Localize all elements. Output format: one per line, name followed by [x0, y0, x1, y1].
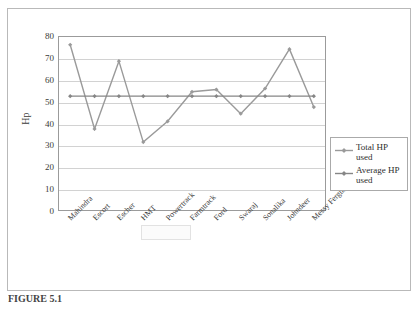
figure-caption: FIGURE 5.1 — [8, 293, 416, 305]
data-point-marker — [287, 94, 291, 98]
legend-item[interactable]: Total HP used — [334, 142, 404, 162]
legend-item-label: Total HP used — [356, 142, 404, 162]
data-point-marker — [117, 59, 121, 63]
y-axis-tick-label: 0 — [30, 207, 54, 216]
data-point-marker — [92, 127, 96, 131]
data-point-marker — [166, 94, 170, 98]
series-layer — [58, 36, 326, 211]
y-axis-tick-labels: 80706050403020100 — [26, 36, 54, 211]
y-axis-tick-label: 70 — [30, 54, 54, 63]
y-axis-tick-label: 50 — [30, 98, 54, 107]
chart-legend: Total HP usedAverage HP used — [330, 137, 408, 191]
y-axis-tick-label: 20 — [30, 163, 54, 172]
data-point-marker — [312, 94, 316, 98]
y-axis-tick-label: 80 — [30, 32, 54, 41]
y-axis-tick-label: 40 — [30, 120, 54, 129]
data-point-marker — [68, 94, 72, 98]
data-point-marker — [92, 94, 96, 98]
data-point-marker — [68, 43, 72, 47]
data-point-marker — [117, 94, 121, 98]
x-axis-tick-labels: MahindraEscortEscherHMTPowertrackFarmtra… — [58, 212, 326, 290]
data-point-marker — [141, 94, 145, 98]
data-point-marker — [263, 94, 267, 98]
y-axis-tick-label: 10 — [30, 185, 54, 194]
data-point-marker — [190, 94, 194, 98]
y-axis-tick-label: 60 — [30, 76, 54, 85]
data-point-marker — [312, 105, 316, 109]
legend-item-label: Average HP used — [356, 165, 404, 185]
legend-marker-icon — [334, 165, 354, 176]
legend-item[interactable]: Average HP used — [334, 165, 404, 185]
figure-frame: Hp 80706050403020100 MahindraEscortEsche… — [7, 8, 411, 291]
legend-marker-icon — [334, 142, 354, 153]
data-point-marker — [239, 94, 243, 98]
data-point-marker — [214, 94, 218, 98]
y-axis-tick-label: 30 — [30, 141, 54, 150]
line-chart: Hp 80706050403020100 MahindraEscortEsche… — [8, 9, 412, 292]
